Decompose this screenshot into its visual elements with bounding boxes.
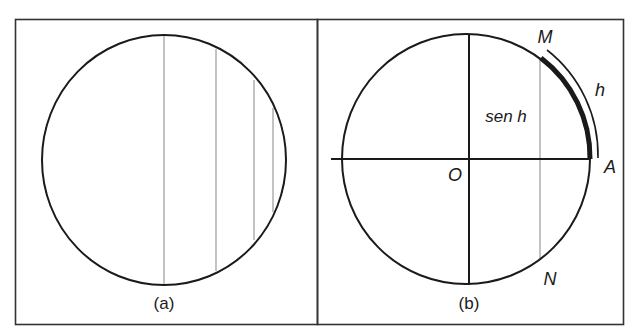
panel-b: M h sen h A O N (b) bbox=[331, 27, 616, 313]
panel-a: (a) bbox=[42, 35, 286, 313]
label-arc-h: h bbox=[595, 80, 605, 100]
panel-b-frame bbox=[318, 20, 624, 325]
caption-a: (a) bbox=[154, 294, 175, 313]
label-point-a: A bbox=[603, 157, 616, 177]
label-sine: sen h bbox=[485, 107, 527, 126]
sine-diagram-figure: (a) M h sen h A O N (b) bbox=[0, 0, 638, 333]
label-point-m: M bbox=[538, 27, 553, 47]
label-origin: O bbox=[448, 165, 462, 185]
arc-h-thick bbox=[541, 58, 590, 159]
label-point-n: N bbox=[544, 269, 558, 289]
panel-a-frame bbox=[16, 20, 318, 325]
caption-b: (b) bbox=[459, 294, 480, 313]
